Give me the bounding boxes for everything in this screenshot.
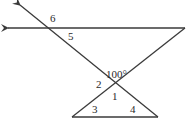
- angle-label-1: 1: [112, 90, 118, 102]
- diagonal-line-ascending: [72, 28, 185, 117]
- diagonal-line-descending: [20, 5, 158, 117]
- angle-label-4: 4: [130, 103, 136, 115]
- angle-label-3: 3: [92, 103, 98, 115]
- angle-label-given-100: 100°: [106, 68, 127, 80]
- geometry-diagram: 6 5 100° 2 1 3 4: [0, 0, 187, 132]
- angle-label-2: 2: [96, 78, 102, 90]
- angle-label-6: 6: [50, 12, 56, 24]
- angle-label-5: 5: [68, 30, 74, 42]
